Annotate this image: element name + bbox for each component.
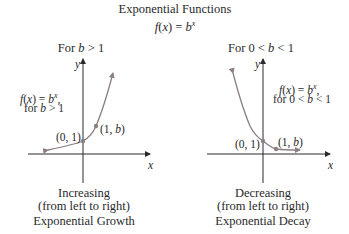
decay-point-label-1-b: (1, b) <box>278 136 303 149</box>
decay-caption-direction: (from left to right) <box>217 200 309 213</box>
growth-point-label-0-1: (0, 1) <box>56 131 81 144</box>
decay-y-label: y <box>255 58 260 71</box>
decay-annotation-line2: for 0 < b < 1 <box>273 93 331 106</box>
ann2-suffix: > 1 <box>46 102 64 114</box>
decay-caption-title: Exponential Decay <box>215 215 310 228</box>
pt-suffix: ) <box>121 123 125 135</box>
ann-exp: x <box>313 82 317 91</box>
decay-x-label: x <box>328 159 333 172</box>
growth-annotation-line2: for b > 1 <box>24 102 64 115</box>
ann-f: f <box>20 93 23 105</box>
decay-point-0-1 <box>261 139 265 143</box>
growth-y-label: y <box>75 58 80 71</box>
pt-prefix: (1, <box>100 123 115 135</box>
growth-point-label-1-b: (1, b) <box>100 123 125 136</box>
ann2-prefix: for <box>24 102 40 114</box>
growth-x-label: x <box>148 159 153 172</box>
growth-point-0-1 <box>81 139 85 143</box>
pt-prefix: (1, <box>278 136 293 148</box>
ann2-prefix: for 0 < <box>273 93 307 105</box>
growth-caption-direction: (from left to right) <box>38 200 130 213</box>
decay-point-label-0-1: (0, 1) <box>235 138 260 151</box>
growth-axes <box>28 59 150 183</box>
growth-caption-title: Exponential Growth <box>33 215 135 228</box>
ann2-suffix: < 1 <box>313 93 331 105</box>
decay-axes <box>207 59 330 183</box>
pt-suffix: ) <box>299 136 303 148</box>
ann-exp: x <box>54 91 58 100</box>
growth-point-1-b <box>94 124 98 128</box>
